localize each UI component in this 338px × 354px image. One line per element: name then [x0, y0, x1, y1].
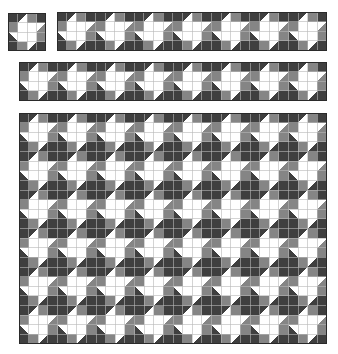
strip-middle: [19, 62, 327, 101]
single-block: [8, 13, 46, 51]
quilt-grid: [19, 113, 327, 344]
strip-top: [57, 12, 327, 51]
